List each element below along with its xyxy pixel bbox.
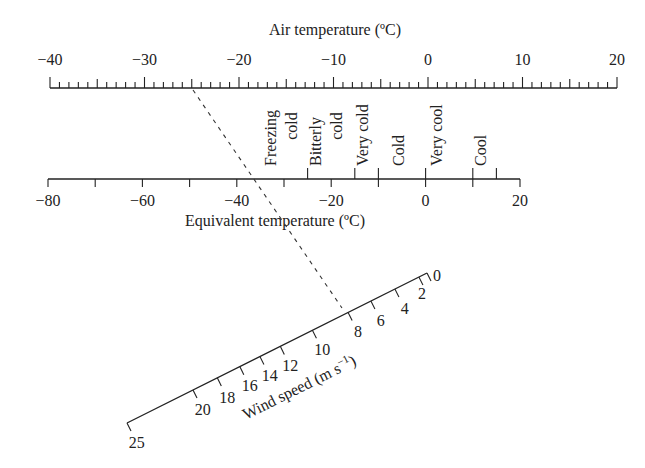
wind-speed-tick-label: 2 bbox=[418, 285, 426, 302]
category-label: Cold bbox=[390, 135, 407, 166]
equivalent-temperature-axis: FreezingcoldBitterlycoldVery coldColdVer… bbox=[35, 104, 528, 230]
equivalent-temperature-title: Equivalent temperature (ºC) bbox=[185, 212, 365, 230]
equivalent-temperature-tick-label: −40 bbox=[224, 192, 249, 209]
equivalent-temperature-tick-label: −80 bbox=[35, 192, 60, 209]
wind-speed-tick-label: 12 bbox=[282, 357, 298, 374]
wind-speed-tick-label: 10 bbox=[314, 341, 330, 358]
air-temperature-tick-label: −40 bbox=[37, 51, 62, 68]
equivalent-temperature-tick-label: 20 bbox=[512, 192, 528, 209]
equivalent-temperature-tick-labels: −80−60−40−20020 bbox=[35, 192, 528, 209]
category-label: cold bbox=[328, 112, 345, 140]
wind-speed-tick-label: 6 bbox=[377, 312, 385, 329]
wind-speed-tick bbox=[260, 357, 264, 365]
equivalent-temperature-tick-label: −60 bbox=[130, 192, 155, 209]
wind-speed-tick bbox=[395, 289, 399, 297]
air-temperature-ticks bbox=[50, 77, 617, 88]
wind-speed-tick bbox=[371, 301, 375, 309]
air-temperature-tick-labels: −40−30−20−1001020 bbox=[37, 51, 625, 68]
wind-speed-tick-label: 18 bbox=[219, 389, 235, 406]
wind-speed-tick bbox=[280, 346, 284, 354]
wind-speed-tick-label: 8 bbox=[354, 323, 362, 340]
wind-speed-tick-label: 4 bbox=[401, 300, 409, 317]
equivalent-temperature-ticks bbox=[48, 168, 520, 187]
wind-speed-tick-label: 16 bbox=[242, 377, 258, 394]
wind-speed-tick bbox=[348, 312, 352, 320]
wind-speed-tick-label: 20 bbox=[195, 401, 211, 418]
air-temperature-tick-label: −20 bbox=[226, 51, 251, 68]
wind-speed-tick-label: 25 bbox=[129, 434, 145, 451]
air-temperature-tick-label: 0 bbox=[424, 51, 432, 68]
wind-speed-tick-label: 0 bbox=[433, 267, 441, 284]
wind-speed-tick-label: 14 bbox=[262, 367, 278, 384]
wind-speed-tick bbox=[127, 423, 131, 431]
equivalent-temperature-tick-label: 0 bbox=[422, 192, 430, 209]
air-temperature-axis: Air temperature (ºC) −40−30−20−1001020 bbox=[37, 21, 625, 88]
air-temperature-tick-label: 20 bbox=[609, 51, 625, 68]
category-label: Cool bbox=[472, 134, 489, 166]
wind-speed-tick bbox=[240, 367, 244, 375]
wind-speed-tick bbox=[193, 390, 197, 398]
air-temperature-title: Air temperature (ºC) bbox=[269, 21, 401, 39]
comfort-category-labels: FreezingcoldBitterlycoldVery coldColdVer… bbox=[262, 104, 489, 166]
wind-speed-axis: 0246810121416182025 Wind speed (m s−1) bbox=[127, 267, 441, 451]
equivalent-temperature-tick-label: −20 bbox=[319, 192, 344, 209]
category-label: Freezing bbox=[262, 110, 280, 166]
wind-speed-tick bbox=[427, 273, 431, 281]
category-label: Very cold bbox=[354, 104, 372, 166]
category-label: cold bbox=[283, 112, 300, 140]
wind-chill-nomogram: Air temperature (ºC) −40−30−20−1001020 F… bbox=[0, 0, 645, 468]
wind-speed-tick bbox=[217, 378, 221, 386]
wind-speed-tick bbox=[419, 277, 423, 285]
category-label: Very cool bbox=[428, 104, 446, 166]
wind-speed-tick-labels: 0246810121416182025 bbox=[129, 267, 441, 451]
wind-speed-ticks bbox=[127, 273, 431, 431]
air-temperature-tick-label: −10 bbox=[321, 51, 346, 68]
air-temperature-tick-label: 10 bbox=[515, 51, 531, 68]
wind-speed-tick bbox=[312, 330, 316, 338]
air-temperature-tick-label: −30 bbox=[132, 51, 157, 68]
category-label: Bitterly bbox=[307, 117, 325, 166]
